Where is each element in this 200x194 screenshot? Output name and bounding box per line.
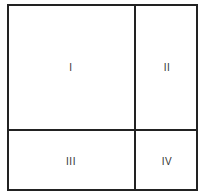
cell-label-iv: IV <box>162 156 172 167</box>
cell-label-ii: II <box>164 62 171 73</box>
horizontal-divider <box>7 129 198 131</box>
cell-label-i: I <box>69 62 72 73</box>
vertical-divider <box>134 4 136 191</box>
cell-label-iii: III <box>66 156 76 167</box>
